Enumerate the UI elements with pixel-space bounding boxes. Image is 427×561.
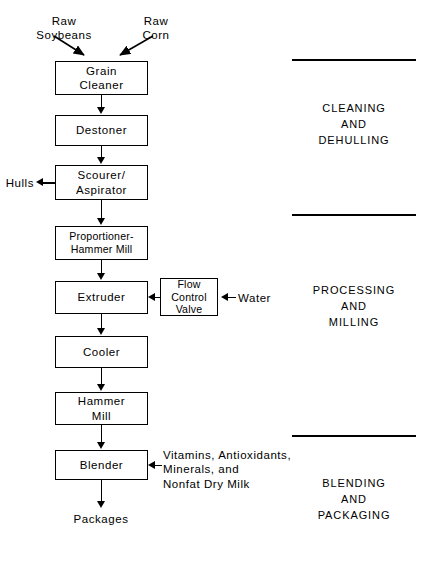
connector-cooler-to-hammer-mill	[101, 368, 103, 384]
arrowhead-to-hulls	[36, 178, 43, 186]
arrowhead-to-hammer-mill	[97, 384, 105, 391]
connector-extruder-to-cooler	[101, 314, 103, 328]
process-box-destoner[interactable]: Destoner	[55, 115, 148, 146]
input-label-water: Water	[238, 291, 298, 305]
arrowhead-to-extruder-water	[148, 293, 155, 301]
stage-label-cleaning-and-dehulling: CLEANING AND DEHULLING	[292, 101, 416, 149]
arrowhead-to-proportioner	[97, 218, 105, 225]
stage-divider-top	[292, 59, 416, 61]
stage-label-processing-and-milling: PROCESSING AND MILLING	[292, 283, 416, 331]
stage-divider-middle	[292, 214, 416, 216]
arrowhead-to-blender-additives	[148, 461, 155, 469]
process-box-blender[interactable]: Blender	[55, 450, 148, 480]
process-box-hammer-mill[interactable]: Hammer Mill	[55, 392, 148, 425]
output-label-packages: Packages	[62, 512, 140, 526]
connector-hammer-mill-to-blender	[101, 425, 103, 442]
arrowhead-to-scourer	[97, 157, 105, 164]
arrowhead-to-extruder	[97, 273, 105, 280]
connector-scourer-to-hulls	[43, 182, 55, 184]
process-box-extruder[interactable]: Extruder	[55, 281, 148, 314]
arrowhead-to-destoner	[97, 107, 105, 114]
arrowhead-to-packages	[97, 501, 105, 508]
connector-proportioner-to-extruder	[101, 260, 103, 273]
arrowhead-to-cooler	[97, 328, 105, 335]
process-box-cooler[interactable]: Cooler	[55, 336, 148, 368]
arrowhead-to-blender	[97, 442, 105, 449]
process-box-scourer-aspirator[interactable]: Scourer/ Aspirator	[55, 165, 148, 200]
process-box-flow-control-valve[interactable]: Flow Control Valve	[160, 278, 218, 316]
process-box-grain-cleaner[interactable]: Grain Cleaner	[55, 61, 148, 95]
stage-divider-bottom	[292, 435, 416, 437]
output-label-hulls: Hulls	[0, 176, 34, 190]
connector-blender-to-packages	[101, 480, 103, 502]
connector-scourer-to-proportioner	[101, 200, 103, 218]
stage-label-blending-and-packaging: BLENDING AND PACKAGING	[292, 476, 416, 524]
process-box-proportioner-hammer-mill[interactable]: Proportioner- Hammer Mill	[55, 226, 148, 260]
process-flow-diagram: Raw Soybeans Raw Corn Grain Cleaner Dest…	[0, 0, 427, 561]
arrowhead-to-valve	[221, 293, 228, 301]
